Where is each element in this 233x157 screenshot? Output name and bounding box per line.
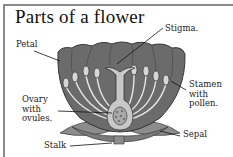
- stalk-shape: [114, 136, 124, 144]
- diagram-title: Parts of a flower: [15, 6, 145, 28]
- label-stamen-line-3: pollen.: [189, 99, 222, 109]
- label-ovary: Ovary with ovules.: [22, 95, 52, 124]
- label-stamen: Stamen with pollen.: [189, 80, 222, 109]
- label-stigma: Stigma.: [165, 24, 198, 34]
- label-ovary-line-3: ovules.: [22, 114, 52, 124]
- label-stalk: Stalk: [44, 141, 66, 151]
- label-sepal: Sepal: [183, 130, 207, 140]
- label-petal: Petal: [16, 40, 38, 50]
